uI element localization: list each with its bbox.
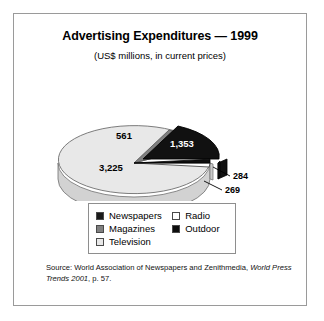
- legend-label-outdoor: Outdoor: [185, 224, 219, 234]
- source-prefix: Source: World Association of Newspapers …: [46, 263, 250, 272]
- chart-legend: Newspapers Magazines Television Radio Ou…: [88, 203, 236, 254]
- figure-frame: Advertising Expenditures — 1999 (US$ mil…: [13, 13, 307, 306]
- legend-item-television[interactable]: Television: [96, 235, 172, 248]
- pie-label-newspapers: 1,353: [170, 138, 194, 149]
- legend-item-newspapers[interactable]: Newspapers: [96, 209, 172, 222]
- legend-column-left: Newspapers Magazines Television: [96, 209, 172, 248]
- pie-depth-thin-slices: [210, 163, 213, 180]
- legend-swatch-newspapers: [96, 212, 104, 220]
- chart-title: Advertising Expenditures — 1999: [14, 29, 306, 43]
- pie-chart: 561 1,353 3,225 284 269: [14, 71, 308, 201]
- legend-swatch-radio: [172, 212, 180, 220]
- pie-label-radio: 269: [225, 185, 240, 195]
- legend-item-magazines[interactable]: Magazines: [96, 222, 172, 235]
- source-suffix: , p. 57.: [88, 274, 111, 283]
- legend-label-television: Television: [109, 237, 151, 247]
- legend-swatch-magazines: [96, 225, 104, 233]
- legend-item-radio[interactable]: Radio: [172, 209, 228, 222]
- legend-swatch-outdoor: [172, 225, 180, 233]
- pie-depth-newspapers: [218, 159, 227, 179]
- legend-label-magazines: Magazines: [109, 224, 155, 234]
- source-note: Source: World Association of Newspapers …: [46, 262, 296, 284]
- chart-subtitle: (US$ millions, in current prices): [14, 50, 306, 61]
- legend-label-radio: Radio: [185, 211, 210, 221]
- legend-column-right: Radio Outdoor: [172, 209, 228, 248]
- legend-swatch-television: [96, 238, 104, 246]
- legend-item-outdoor[interactable]: Outdoor: [172, 222, 228, 235]
- pie-label-magazines: 561: [116, 130, 133, 141]
- legend-label-newspapers: Newspapers: [109, 211, 162, 221]
- pie-label-outdoor: 284: [233, 171, 248, 181]
- pie-label-television: 3,225: [99, 162, 123, 173]
